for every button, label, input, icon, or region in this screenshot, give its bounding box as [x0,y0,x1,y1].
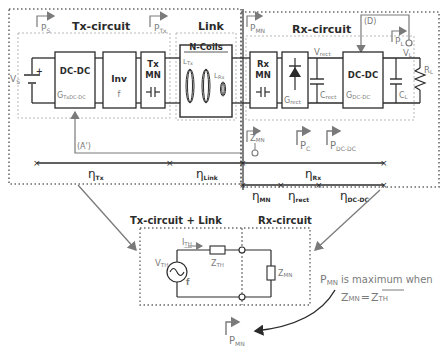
svg-text:Tx: Tx [147,59,159,69]
pl-arrow: PL [392,31,406,47]
svg-text:RL: RL [424,65,434,75]
eta-tx-label: ηTx [88,167,104,181]
svg-text:ZMN: ZMN [278,269,292,278]
svg-text:MN: MN [255,70,271,80]
n-coils-block: N-Coils LTx LRx [180,42,232,117]
svg-text:×: × [277,180,285,190]
zmn-probe: ZMN [247,131,265,156]
vs-source: + VS [10,67,43,85]
equiv-left-title: Tx-circuit + Link [130,215,222,226]
svg-text:PS: PS [41,23,50,34]
d-feedback-line: (D) [361,15,412,52]
svg-text:DC-DC: DC-DC [60,66,90,76]
rx-dcdc-block: DC-DC GDC-DC [343,52,383,108]
ptx-arrow: PTx [150,16,167,34]
svg-text:ZMN=ZTH: ZMN=ZTH [341,291,388,304]
eta-rect-label: ηrect [288,189,309,203]
svg-text:PMNis maximum when: PMNis maximum when [320,273,433,287]
eta-dcdc-label: ηDC-DC [340,189,370,203]
pmn-output-arrow: PMN [226,322,245,347]
svg-text:N-Coils: N-Coils [189,42,223,52]
svg-text:PDC-DC: PDC-DC [330,140,356,152]
rx-matching-network-block: Rx MN [250,52,277,108]
zmn-load-impedance: ZMN [267,266,292,280]
svg-text:PMN: PMN [229,335,245,347]
svg-text:VL: VL [403,48,413,58]
pc-arrow: PC [297,131,310,152]
svg-text:Crect: Crect [320,91,337,100]
svg-text:×: × [380,180,388,190]
svg-text:CL: CL [399,91,409,100]
ps-arrow: PS [37,16,54,34]
svg-text:×: × [166,158,174,168]
terminal-node-top [239,247,245,253]
tx-dcdc-block: DC-DC GTxDC-DC [55,52,95,108]
c-load-capacitor: CL [390,58,409,103]
svg-text:MN: MN [145,70,161,80]
c-rect-capacitor: Vrect Crect [310,47,337,103]
svg-text:PC: PC [300,140,310,152]
max-power-condition: PMNis maximum when ZMN=ZTH [320,273,433,304]
zth-impedance: ZTH [210,246,225,268]
terminal-node-bottom [239,294,245,300]
curved-arrow [255,290,335,331]
svg-text:×: × [33,158,41,168]
equiv-wires [177,250,271,297]
eta-mn-label: ηMN [252,189,271,203]
tx-circuit-title: Tx-circuit [72,20,130,33]
svg-text:LRx: LRx [214,72,224,80]
svg-text:×: × [380,158,388,168]
pmn-arrow: PMN [247,16,265,34]
link-title: Link [198,20,225,33]
svg-text:×: × [239,158,247,168]
svg-text:ZMN: ZMN [250,133,265,143]
svg-text:(A'): (A') [77,142,91,151]
inverter-block: Inv f [103,52,136,108]
rx-circuit-title: Rx-circuit [292,23,351,36]
svg-text:f: f [118,90,121,99]
eta-rx-label: ηRx [305,167,321,181]
vth-ac-source: VTH f [155,258,190,287]
svg-text:ZTH: ZTH [211,259,224,268]
wpt-power-chain-diagram: Tx-circuit Link Rx-circuit PS PTx PMN PL… [0,0,447,358]
svg-text:(D): (D) [364,17,376,26]
equiv-right-title: Rx-circuit [258,215,312,226]
svg-text:LTx: LTx [183,58,193,66]
svg-text:PMN: PMN [250,23,265,34]
svg-text:Vrect: Vrect [314,47,331,57]
svg-text:×: × [315,180,323,190]
eta-link-label: ηLink [196,167,219,181]
svg-text:VTH: VTH [155,258,168,268]
tx-matching-network-block: Tx MN [141,52,165,108]
svg-text:DC-DC: DC-DC [348,70,378,80]
svg-text:+: + [36,67,43,76]
pdcdc-arrow: PDC-DC [327,131,356,152]
svg-text:×: × [239,180,247,190]
rectifier-block: Grect [282,52,308,108]
svg-text:VS: VS [10,74,20,85]
svg-text:f: f [186,278,190,287]
svg-text:PTx: PTx [154,23,167,34]
tx-to-equivalent-arrow [78,185,136,250]
svg-text:PL: PL [395,36,404,47]
ith-current-label: ITH [182,238,202,247]
svg-text:Inv: Inv [111,74,127,84]
svg-text:Rx: Rx [257,59,270,69]
